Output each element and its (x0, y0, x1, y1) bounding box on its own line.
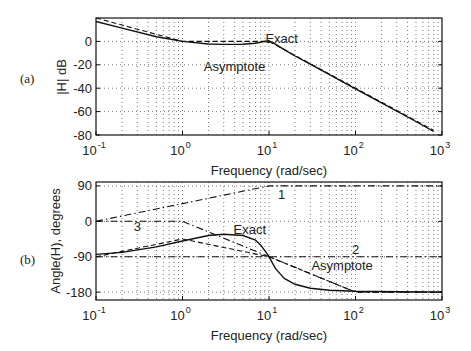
annotation-2: 2 (352, 242, 359, 257)
x-tick-label: 103 (430, 140, 450, 158)
x-tick-label: 100 (170, 305, 190, 323)
bode-plot: 0-20-40-60-8010-1100101102103Frequency (… (0, 0, 471, 351)
series-1 (96, 186, 442, 221)
x-axis-label: Frequency (rad/sec) (211, 328, 327, 343)
magnitude-plot: 0-20-40-60-8010-1100101102103Frequency (… (20, 18, 450, 178)
x-tick-label: 101 (257, 140, 277, 158)
x-tick-label: 10-1 (82, 140, 105, 158)
y-tick-label: 0 (85, 214, 92, 229)
y-tick-label: -40 (73, 81, 92, 96)
x-tick-label: 103 (430, 305, 450, 323)
y-tick-label: -180 (66, 285, 92, 300)
x-tick-label: 102 (343, 140, 363, 158)
y-tick-label: 0 (85, 34, 92, 49)
panel-label: (b) (20, 252, 35, 267)
annotation-asymptote: Asymptote (204, 59, 265, 74)
annotation-exact: Exact (265, 31, 298, 46)
y-tick-label: -20 (73, 57, 92, 72)
y-axis-label: Angle(H), degrees (48, 188, 63, 294)
annotation-exact: Exact (234, 222, 267, 237)
annotation-1: 1 (278, 187, 285, 202)
y-tick-label: -90 (73, 249, 92, 264)
y-axis-label: |H| dB (54, 59, 69, 95)
x-tick-label: 102 (343, 305, 363, 323)
x-tick-label: 10-1 (82, 305, 105, 323)
x-tick-label: 101 (257, 305, 277, 323)
x-tick-label: 100 (170, 140, 190, 158)
y-tick-label: -80 (73, 128, 92, 143)
panel-label: (a) (20, 71, 34, 86)
annotation-asymptote: Asymptote (311, 258, 372, 273)
x-axis-label: Frequency (rad/sec) (211, 163, 327, 178)
y-tick-label: -60 (73, 104, 92, 119)
annotation-3: 3 (134, 219, 141, 234)
phase-plot: 900-90-18010-1100101102103Frequency (rad… (20, 178, 450, 343)
y-tick-label: 90 (78, 178, 92, 193)
